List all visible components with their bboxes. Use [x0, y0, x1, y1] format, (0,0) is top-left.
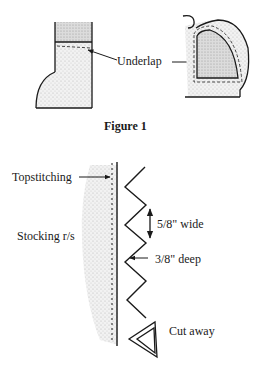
underlap-label: Underlap: [117, 55, 162, 67]
cut-away-triangle: [129, 322, 157, 357]
heel-pattern-shape: [183, 16, 249, 97]
zigzag-edge: [125, 167, 146, 318]
topstitching-label: Topstitching: [12, 171, 72, 183]
figure-1-caption: Figure 1: [104, 120, 147, 132]
depth-label: 3/8" deep: [155, 253, 201, 265]
width-label: 5/8" wide: [157, 218, 204, 230]
boot-pattern-shape: [36, 22, 92, 108]
stocking-edge-diagram: [82, 162, 146, 346]
cut-away-label: Cut away: [169, 325, 215, 337]
stocking-label: Stocking r/s: [17, 230, 75, 242]
